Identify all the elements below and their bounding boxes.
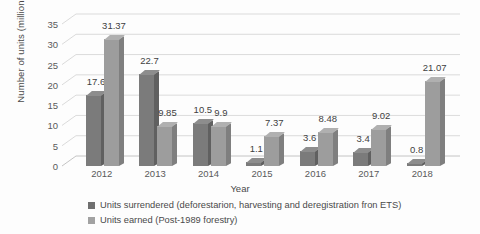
bar-side-face (279, 133, 284, 166)
bar-2017-series2 (371, 129, 386, 166)
bar-2012-series2 (104, 39, 119, 166)
legend-swatch-icon (88, 202, 95, 209)
x-axis-title: Year (0, 183, 480, 194)
legend-swatch-icon (88, 217, 95, 224)
x-axis-tick-label-2017: 2017 (358, 168, 379, 179)
bar-2018-series1 (407, 163, 422, 166)
bar-2014-series1 (193, 123, 208, 166)
bar-front-face (193, 123, 208, 166)
bar-2013-series1 (139, 74, 154, 166)
plot-area: 17.631.3722.79.8510.59.91.17.373.68.483.… (62, 14, 460, 166)
y-axis-tick-label: 10 (47, 120, 58, 131)
data-label: 10.5 (194, 104, 213, 115)
bar-2018-series2 (425, 81, 440, 166)
data-label: 3.4 (357, 133, 370, 144)
bar-front-face (264, 136, 279, 166)
bar-2013-series2 (157, 126, 172, 166)
legend-item-1[interactable]: Units surrendered (deforestarion, harves… (88, 200, 401, 210)
data-label: 3.6 (303, 132, 316, 143)
bar-side-face (172, 123, 177, 166)
x-axis-tick-label-2016: 2016 (305, 168, 326, 179)
bar-group: 3.49.02 (349, 14, 402, 166)
legend-label: Units earned (Post-1989 forestry) (100, 215, 237, 225)
bar-group: 10.59.9 (189, 14, 242, 166)
x-axis-tick-label-2013: 2013 (145, 168, 166, 179)
x-axis-tick-labels: 2012201320142015201620172018 (62, 168, 460, 182)
data-label: 7.37 (265, 117, 284, 128)
data-label: 9.02 (372, 110, 391, 121)
y-axis-tick-label: 35 (47, 19, 58, 30)
data-label: 22.7 (140, 55, 159, 66)
data-label: 9.85 (158, 107, 177, 118)
x-axis-tick-label-2012: 2012 (91, 168, 112, 179)
data-label: 1.1 (250, 143, 263, 154)
data-label: 21.07 (423, 62, 447, 73)
bar-front-face (139, 74, 154, 166)
data-label: 31.37 (102, 20, 126, 31)
bar-side-face (119, 36, 124, 166)
bar-front-face (157, 126, 172, 166)
bar-groups: 17.631.3722.79.8510.59.91.17.373.68.483.… (62, 14, 460, 166)
bar-2015-series2 (264, 136, 279, 166)
bar-group: 22.79.85 (135, 14, 188, 166)
bar-2014-series2 (211, 126, 226, 166)
bar-2016-series1 (300, 151, 315, 166)
y-axis-title: Number of units (millions) (15, 0, 26, 123)
bar-side-face (226, 123, 231, 166)
bar-group: 17.631.37 (82, 14, 135, 166)
chart-legend: Units surrendered (deforestarion, harves… (88, 200, 401, 230)
y-axis-tick-label: 15 (47, 100, 58, 111)
bar-front-face (318, 132, 333, 166)
y-axis-tick-labels: 05101520253035 (28, 14, 58, 166)
bar-front-face (425, 81, 440, 166)
y-axis-tick-label: 20 (47, 79, 58, 90)
bar-front-face (371, 129, 386, 166)
bar-2012-series1 (86, 95, 101, 166)
y-axis-tick-label: 25 (47, 59, 58, 70)
bar-group: 0.821.07 (403, 14, 456, 166)
y-axis-tick-label: 0 (53, 161, 58, 172)
bar-2016-series2 (318, 132, 333, 166)
data-label: 8.48 (318, 113, 337, 124)
bar-front-face (300, 151, 315, 166)
bar-group: 3.68.48 (296, 14, 349, 166)
legend-item-2[interactable]: Units earned (Post-1989 forestry) (88, 215, 401, 225)
bar-side-face (333, 129, 338, 166)
bar-side-face (386, 127, 391, 166)
bar-front-face (104, 39, 119, 166)
y-axis-tick-label: 30 (47, 39, 58, 50)
bar-front-face (86, 95, 101, 166)
bar-chart: Number of units (millions) Year 05101520… (0, 0, 480, 234)
bar-front-face (353, 152, 368, 166)
bar-side-face (440, 78, 445, 166)
bar-2017-series1 (353, 152, 368, 166)
y-axis-tick-label: 5 (53, 140, 58, 151)
x-axis-tick-label-2015: 2015 (251, 168, 272, 179)
legend-label: Units surrendered (deforestarion, harves… (100, 200, 401, 210)
bar-group: 1.17.37 (242, 14, 295, 166)
x-axis-tick-label-2014: 2014 (198, 168, 219, 179)
data-label: 0.8 (410, 144, 423, 155)
data-label: 17.6 (87, 76, 106, 87)
x-axis-tick-label-2018: 2018 (412, 168, 433, 179)
bar-front-face (211, 126, 226, 166)
bar-2015-series1 (246, 162, 261, 166)
data-label: 9.9 (214, 107, 227, 118)
